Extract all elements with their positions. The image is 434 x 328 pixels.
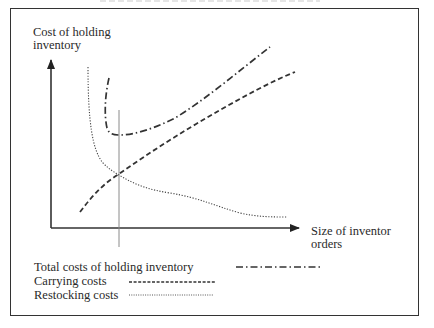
legend-label-restocking: Restocking costs [34, 289, 118, 302]
y-axis-label-line1: Cost of holding [33, 26, 111, 39]
x-axis-label-line1: Size of inventor [311, 225, 391, 238]
x-axis-label: Size of inventor orders [311, 225, 391, 250]
x-axis-label-line2: orders [311, 238, 391, 251]
legend-label-carrying: Carrying costs [34, 275, 107, 288]
y-axis-label: Cost of holding inventory [33, 26, 111, 51]
y-axis-label-line2: inventory [33, 39, 111, 52]
total-costs-curve [105, 47, 270, 135]
legend-label-total: Total costs of holding inventory [34, 261, 194, 274]
carrying-costs-curve [80, 72, 295, 212]
